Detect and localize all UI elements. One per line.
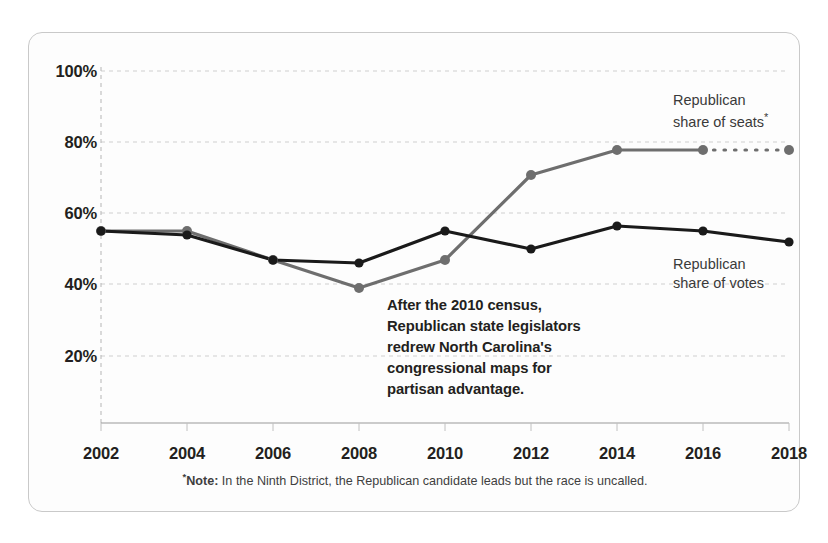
series-label-seats-asterisk: * — [764, 111, 768, 123]
series-label-seats-line2-text: share of seats — [673, 114, 764, 130]
footnote-text: In the Ninth District, the Republican ca… — [218, 474, 647, 488]
x-tick-label-2016: 2016 — [685, 444, 721, 463]
x-tick-label-2002: 2002 — [83, 444, 119, 463]
series-label-votes-line2: share of votes — [673, 274, 764, 293]
x-tick-label-2006: 2006 — [255, 444, 291, 463]
x-tick-label-2010: 2010 — [427, 444, 463, 463]
footnote-note-label: Note: — [186, 474, 218, 488]
series-label-votes-line1: Republican — [673, 255, 764, 274]
series-label-seats: Republican share of seats* — [673, 91, 768, 132]
chart-footnote: *Note: In the Ninth District, the Republ… — [29, 471, 801, 488]
chart-annotation: After the 2010 census, Republican state … — [387, 295, 581, 400]
series-label-votes: Republican share of votes — [673, 255, 764, 293]
x-tick-label-2012: 2012 — [513, 444, 549, 463]
plot-area: 100% 80% 60% 40% 20% 2002 2004 2006 2008… — [29, 33, 801, 513]
chart-card: 100% 80% 60% 40% 20% 2002 2004 2006 2008… — [28, 32, 800, 512]
x-tick-label-2004: 2004 — [169, 444, 205, 463]
series-label-seats-line2: share of seats* — [673, 110, 768, 132]
x-tick-label-2008: 2008 — [341, 444, 377, 463]
x-tick-label-2018: 2018 — [771, 444, 807, 463]
series-label-seats-line1: Republican — [673, 91, 768, 110]
x-tick-label-2014: 2014 — [599, 444, 635, 463]
